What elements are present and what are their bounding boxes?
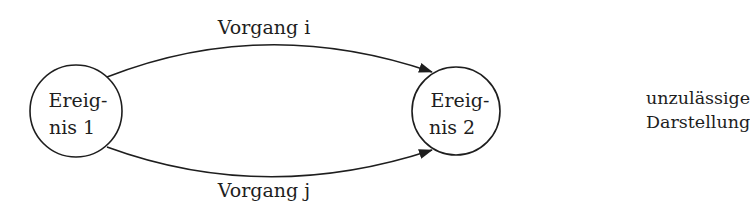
edge-label-vorgang-j: Vorgang j: [217, 179, 310, 201]
caption-line1: unzulässige: [646, 86, 750, 110]
node-label-line2: nis 2: [429, 116, 475, 138]
event-node-2: Ereig- nis 2: [412, 67, 500, 155]
edge-vorgang-i-arrow: [107, 45, 432, 77]
edge-vorgang-j-arrow: [107, 147, 432, 177]
caption-line2: Darstellung: [646, 110, 750, 134]
node-label-line1: Ereig-: [431, 89, 490, 111]
node-circle: [412, 67, 500, 155]
node-label-line1: Ereig-: [49, 89, 108, 111]
node-circle: [30, 65, 122, 157]
diagram-caption: unzulässige Darstellung: [646, 86, 750, 134]
edge-label-vorgang-i: Vorgang i: [217, 16, 311, 38]
node-label-line2: nis 1: [49, 116, 95, 138]
event-node-1: Ereig- nis 1: [30, 65, 122, 157]
